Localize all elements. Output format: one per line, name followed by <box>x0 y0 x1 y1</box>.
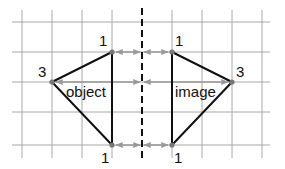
image-vertex-label-3: 3 <box>236 63 244 80</box>
image-label: image <box>175 83 216 100</box>
object-vertex-label-3: 3 <box>38 63 46 80</box>
object-vertex-label-top-1: 1 <box>99 32 107 49</box>
vertex-point <box>169 49 174 54</box>
vertex-point <box>229 79 234 84</box>
image-vertex-label-top-1: 1 <box>175 32 183 49</box>
image-vertex-label-bottom-1: 1 <box>174 149 182 166</box>
vertex-point <box>49 79 54 84</box>
vertex-point <box>169 142 174 147</box>
object-vertex-label-bottom-1: 1 <box>101 149 109 166</box>
object-label: object <box>66 83 107 100</box>
vertex-point <box>109 49 114 54</box>
reflection-diagram: object image 3 1 1 3 1 1 <box>0 0 285 169</box>
vertex-point <box>109 142 114 147</box>
